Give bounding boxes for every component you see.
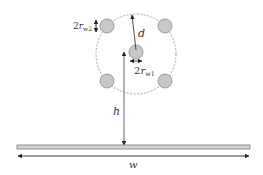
spacing-arrow: [132, 15, 136, 50]
outer-wire-top-right: [158, 19, 172, 33]
outer-wire-bottom-left: [100, 74, 114, 88]
ground-strip: [17, 145, 250, 149]
outer-wire-diameter-label: 2rw2: [73, 21, 92, 32]
wire-geometry-diagram: d 2rw2 2rw1 h w: [0, 0, 263, 175]
width-label: w: [129, 159, 138, 170]
outer-wire-top-left: [100, 19, 114, 33]
spacing-label: d: [138, 27, 145, 40]
height-label: h: [113, 105, 120, 118]
outer-wire-bottom-right: [158, 74, 172, 88]
center-wire-diameter-label: 2rw1: [134, 65, 155, 78]
